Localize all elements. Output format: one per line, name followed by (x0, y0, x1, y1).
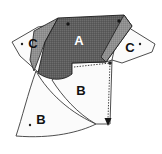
geometric-net-diagram: A C C B B (0, 0, 162, 154)
panel-b-lower-left-label: B (36, 112, 45, 127)
corner-dot-guide-origin (108, 61, 112, 65)
corner-dot-panel-a-right (117, 19, 120, 22)
panel-c-left-label: C (28, 36, 38, 51)
corner-dot-panel-b-lower-left (29, 124, 31, 126)
panel-b-center-label: B (76, 83, 85, 98)
diagram-canvas: A C C B B (0, 0, 162, 154)
panel-a-label: A (74, 33, 84, 48)
corner-dot-panel-c-right (139, 43, 141, 45)
panel-c-right-label: C (125, 40, 135, 55)
corner-dot-panel-c-left (21, 43, 23, 45)
corner-dot-panel-a-left (66, 22, 69, 25)
